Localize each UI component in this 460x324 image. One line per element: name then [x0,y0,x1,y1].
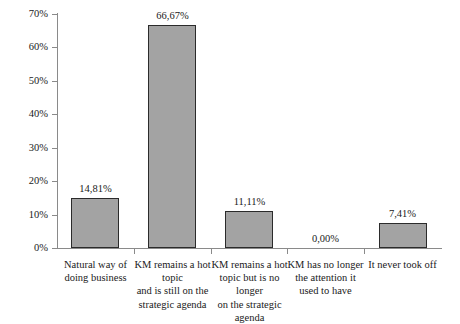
x-axis-tick-mark [287,249,288,254]
y-axis-tick-label: 50% [29,75,48,86]
y-axis-tick-mark [52,81,57,82]
bar-value-label: 66,67% [134,10,211,22]
y-axis-tick-mark [52,14,57,15]
y-axis-tick-label: 40% [29,108,48,119]
y-axis-line [57,13,58,249]
bar [71,198,119,248]
category-label-line: It never took off [364,258,441,271]
y-axis-tick-mark [52,148,57,149]
y-axis-tick-mark [52,47,57,48]
category-label: It never took off [364,258,441,271]
category-label-line: KM remains a hot [211,258,288,271]
bar-value-label: 14,81% [57,183,134,195]
category-label-line: the attention it [287,271,364,284]
y-axis-tick-mark [52,248,57,249]
category-label: KM remains a hot topicand is still on th… [134,258,211,311]
y-axis-tick-label: 70% [29,8,48,19]
bar [379,223,427,248]
category-label-line: and is still on the [134,284,211,297]
category-label-line: doing business [57,271,134,284]
x-axis-tick-mark [364,249,365,254]
y-axis-tick-label: 0% [34,242,48,253]
category-label-line: KM remains a hot topic [134,258,211,284]
y-axis-tick-label: 10% [29,209,48,220]
category-label: Natural way ofdoing business [57,258,134,284]
category-label-line: on the strategic agenda [211,298,288,324]
category-label-line: strategic agenda [134,298,211,311]
y-axis-tick-label: 60% [29,41,48,52]
x-axis-tick-mark [211,249,212,254]
bar [148,25,196,248]
category-label-line: used to have [287,284,364,297]
bar-value-label: 11,11% [211,196,288,208]
category-label-line: Natural way of [57,258,134,271]
y-axis-tick-mark [52,181,57,182]
x-axis-tick-mark [134,249,135,254]
x-axis-line [57,248,442,249]
y-axis-tick-mark [52,114,57,115]
bar-value-label: 7,41% [364,208,441,220]
category-label-line: KM has no longer [287,258,364,271]
y-axis-tick-label: 30% [29,142,48,153]
category-label: KM has no longerthe attention itused to … [287,258,364,298]
bar-value-label: 0,00% [287,233,364,245]
category-label-line: topic but is no longer [211,271,288,297]
bar [225,211,273,248]
y-axis-tick-label: 20% [29,175,48,186]
y-axis-tick-mark [52,215,57,216]
category-label: KM remains a hottopic but is no longeron… [211,258,288,324]
